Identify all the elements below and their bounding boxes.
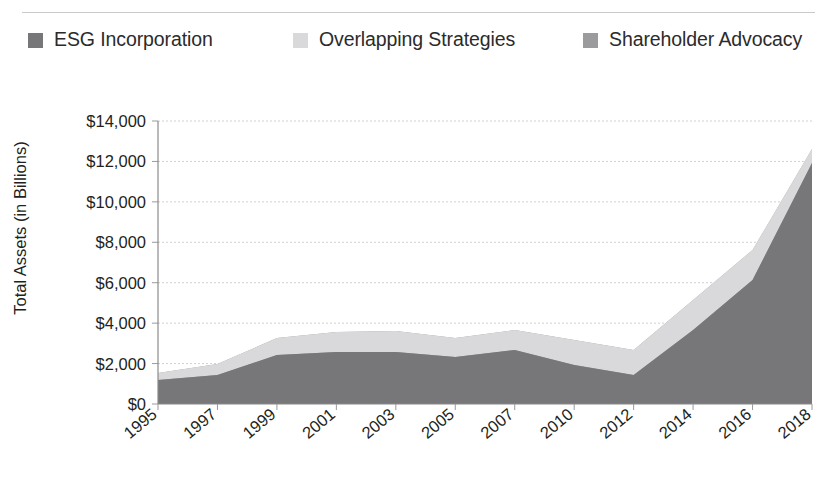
x-tick-label: 2014	[655, 405, 695, 442]
y-tick-label: $8,000	[96, 233, 146, 251]
y-tick-label: $4,000	[96, 314, 146, 332]
x-tick-label: 2003	[358, 405, 398, 442]
chart-figure: ESG Incorporation Overlapping Strategies…	[0, 0, 837, 494]
x-tick-label: 1997	[180, 405, 220, 442]
y-tick-label: $6,000	[96, 274, 146, 292]
chart-plot-area: $0$2,000$4,000$6,000$8,000$10,000$12,000…	[0, 0, 837, 494]
x-tick-label: 2018	[774, 405, 814, 442]
legend-swatch-icon	[293, 33, 308, 48]
x-tick-label: 2005	[418, 405, 458, 442]
y-tick-label: $10,000	[86, 193, 146, 211]
x-tick-label: 2010	[536, 405, 576, 442]
x-tick-label: 2012	[596, 405, 636, 442]
y-tick-label: $14,000	[86, 112, 146, 130]
legend-label: ESG Incorporation	[54, 30, 213, 50]
y-tick-label: $2,000	[96, 355, 146, 373]
x-tick-label: 1999	[239, 405, 279, 442]
legend-swatch-icon	[583, 33, 598, 48]
legend-swatch-icon	[28, 33, 43, 48]
x-tick-label: 2001	[299, 405, 339, 442]
area-series-group	[158, 149, 812, 404]
legend-item-esg-incorporation[interactable]: ESG Incorporation	[28, 26, 213, 54]
x-axis-ticks: 1995199719992001200320052007201020122014…	[120, 405, 814, 442]
y-axis-ticks: $0$2,000$4,000$6,000$8,000$10,000$12,000…	[86, 112, 146, 413]
legend-label: Overlapping Strategies	[319, 30, 515, 50]
legend-item-overlapping-strategies[interactable]: Overlapping Strategies	[293, 26, 515, 54]
y-tick-label: $12,000	[86, 152, 146, 170]
x-tick-label: 2016	[715, 405, 755, 442]
legend-item-shareholder-advocacy[interactable]: Shareholder Advocacy	[583, 26, 802, 54]
x-tick-label: 2007	[477, 405, 517, 442]
chart-legend: ESG Incorporation Overlapping Strategies…	[0, 26, 837, 54]
header-divider	[22, 12, 815, 13]
legend-label: Shareholder Advocacy	[609, 30, 802, 50]
